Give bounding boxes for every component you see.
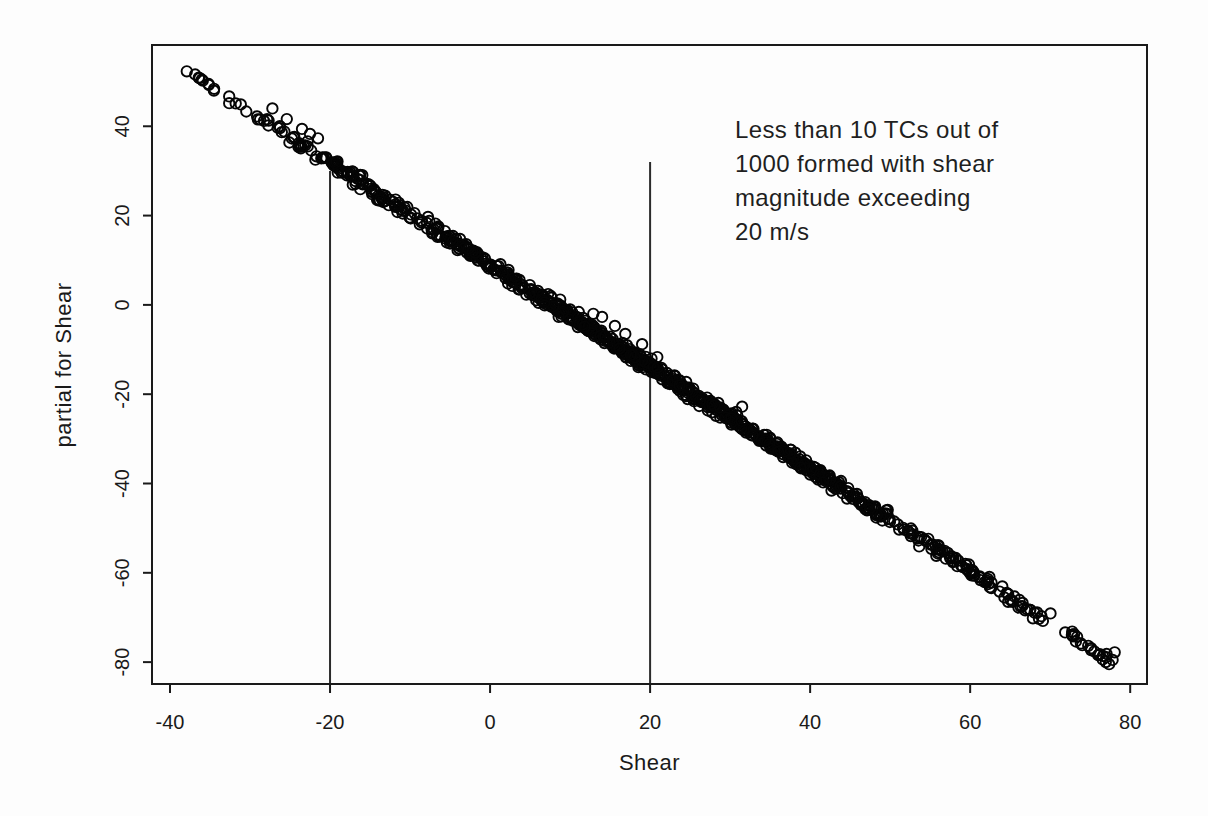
y-tick-label: 40 (111, 115, 133, 137)
scatter-plot: -40-2002040608040200-20-40-60-80 (0, 0, 1208, 816)
data-point (241, 106, 251, 116)
y-tick-label: -60 (111, 558, 133, 587)
outlier-point (610, 321, 620, 331)
annotation-line: Less than 10 TCs out of (735, 113, 999, 147)
outlier-point (313, 133, 323, 143)
y-tick-label: 20 (111, 204, 133, 226)
annotation-text: Less than 10 TCs out of 1000 formed with… (735, 113, 999, 249)
y-tick-label: 0 (111, 299, 133, 310)
outlier-point (637, 339, 647, 349)
annotation-line: magnitude exceeding (735, 181, 999, 215)
x-tick-label: 60 (959, 711, 981, 733)
x-tick-label: -40 (156, 711, 185, 733)
x-tick-label: 80 (1119, 711, 1141, 733)
outlier-point (267, 103, 277, 113)
x-tick-label: -20 (316, 711, 345, 733)
x-tick-label: 0 (485, 711, 496, 733)
y-tick-label: -20 (111, 380, 133, 409)
figure: -40-2002040608040200-20-40-60-80 Shear p… (0, 0, 1208, 816)
y-tick-label: -80 (111, 648, 133, 677)
annotation-line: 1000 formed with shear (735, 147, 999, 181)
outlier-point (282, 114, 292, 124)
x-axis-title: Shear (152, 750, 1147, 776)
x-tick-label: 40 (799, 711, 821, 733)
y-axis-title: partial for Shear (51, 282, 77, 447)
data-point (224, 91, 234, 101)
y-tick-label: -40 (111, 469, 133, 498)
x-tick-label: 20 (639, 711, 661, 733)
annotation-line: 20 m/s (735, 215, 999, 249)
